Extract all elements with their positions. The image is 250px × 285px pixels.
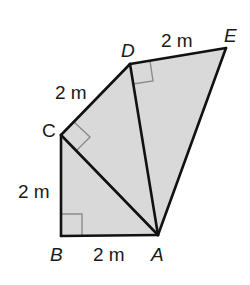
- point-label-e: E: [224, 25, 237, 46]
- length-label-bc: 2 m: [18, 181, 50, 202]
- point-label-c: C: [42, 120, 56, 141]
- length-label-cd: 2 m: [55, 82, 87, 103]
- segment-ba: [61, 235, 158, 236]
- point-label-a: A: [150, 244, 164, 265]
- point-label-d: D: [121, 40, 135, 61]
- length-label-ba: 2 m: [93, 244, 125, 265]
- spiral-triangle-diagram: A B C D E 2 m 2 m 2 m 2 m: [0, 0, 250, 285]
- length-label-de: 2 m: [161, 30, 193, 51]
- point-label-b: B: [50, 244, 63, 265]
